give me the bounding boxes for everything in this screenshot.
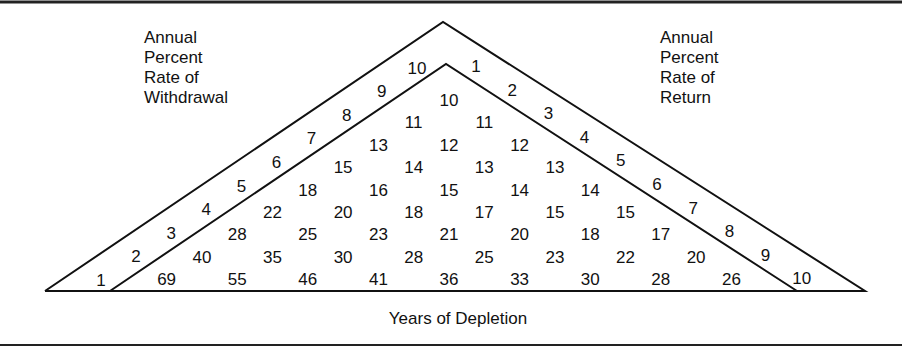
- depletion-years-cell: 14: [510, 181, 529, 200]
- depletion-years-cell: 25: [298, 225, 317, 244]
- depletion-years-cell: 22: [263, 203, 282, 222]
- depletion-years-cell: 20: [510, 225, 529, 244]
- depletion-years-cell: 18: [581, 225, 600, 244]
- withdrawal-rate-label: 1: [96, 271, 105, 290]
- depletion-years-cell: 14: [581, 181, 600, 200]
- depletion-years-cell: 12: [440, 136, 459, 155]
- depletion-years-cell: 11: [405, 113, 423, 132]
- depletion-years-cell: 18: [404, 203, 423, 222]
- depletion-years-cell: 20: [687, 248, 706, 267]
- right-label-line: Percent: [660, 48, 719, 68]
- depletion-years-cell: 14: [404, 158, 423, 177]
- depletion-years-cell: 23: [545, 248, 564, 267]
- return-rate-label: 3: [544, 104, 553, 123]
- withdrawal-rate-label: 5: [237, 177, 246, 196]
- depletion-triangle-diagram: 12345678910 12345678910 1011111312121514…: [0, 0, 902, 355]
- depletion-years-cell: 55: [228, 270, 247, 289]
- return-rate-label: 10: [792, 269, 811, 288]
- depletion-years-cell: 13: [475, 158, 494, 177]
- depletion-years-cell: 25: [475, 248, 494, 267]
- withdrawal-rate-label: 10: [407, 59, 426, 78]
- return-rate-label: 4: [580, 128, 589, 147]
- depletion-years-cell: 17: [475, 203, 494, 222]
- right-label-line: Rate of: [660, 68, 719, 88]
- depletion-years-cell: 23: [369, 225, 388, 244]
- depletion-years-cell: 18: [298, 181, 317, 200]
- left-label-line: Annual: [144, 28, 228, 48]
- return-rate-labels: 12345678910: [471, 57, 811, 288]
- depletion-years-cell: 33: [510, 270, 529, 289]
- return-rate-label: 9: [761, 246, 770, 265]
- withdrawal-rate-label: 6: [272, 153, 281, 172]
- withdrawal-rate-label: 2: [131, 247, 140, 266]
- left-label-line: Percent: [144, 48, 228, 68]
- depletion-years-cell: 22: [616, 248, 635, 267]
- x-axis-label: Years of Depletion: [0, 309, 902, 329]
- depletion-years-cell: 30: [581, 270, 600, 289]
- depletion-years-cell: 30: [334, 248, 353, 267]
- depletion-years-cell: 20: [334, 203, 353, 222]
- depletion-years-cell: 21: [440, 225, 459, 244]
- return-rate-label: 2: [507, 81, 516, 100]
- withdrawal-rate-label: 3: [166, 224, 175, 243]
- depletion-years-cell: 40: [192, 248, 211, 267]
- return-rate-label: 1: [471, 57, 480, 76]
- depletion-years-cell: 28: [228, 225, 247, 244]
- return-rate-label: 5: [616, 151, 625, 170]
- depletion-years-cell: 69: [157, 270, 176, 289]
- right-label-line: Return: [660, 88, 719, 108]
- depletion-years-cell: 13: [369, 136, 388, 155]
- depletion-years-cell: 12: [510, 136, 529, 155]
- withdrawal-axis-label: Annual Percent Rate of Withdrawal: [144, 28, 228, 108]
- depletion-years-cell: 28: [404, 248, 423, 267]
- depletion-years-cell: 17: [651, 225, 670, 244]
- depletion-years-cell: 13: [545, 158, 564, 177]
- depletion-years-cell: 11: [475, 113, 493, 132]
- depletion-years-cell: 15: [440, 181, 459, 200]
- depletion-years-cell: 46: [298, 270, 317, 289]
- depletion-years-cell: 26: [722, 270, 741, 289]
- return-rate-label: 8: [725, 222, 734, 241]
- return-rate-label: 6: [652, 175, 661, 194]
- depletion-years-cell: 15: [334, 158, 353, 177]
- right-label-line: Annual: [660, 28, 719, 48]
- withdrawal-rate-label: 7: [307, 129, 316, 148]
- depletion-years-cell: 15: [616, 203, 635, 222]
- depletion-years-cell: 41: [369, 270, 388, 289]
- left-label-line: Withdrawal: [144, 88, 228, 108]
- return-rate-label: 7: [688, 199, 697, 218]
- withdrawal-rate-label: 8: [342, 106, 351, 125]
- depletion-years-cell: 35: [263, 248, 282, 267]
- left-label-line: Rate of: [144, 68, 228, 88]
- depletion-years-cell: 36: [440, 270, 459, 289]
- depletion-years-cell: 10: [440, 91, 459, 110]
- return-axis-label: Annual Percent Rate of Return: [660, 28, 719, 108]
- depletion-years-cell: 16: [369, 181, 388, 200]
- depletion-years-cell: 15: [545, 203, 564, 222]
- depletion-years-cell: 28: [651, 270, 670, 289]
- withdrawal-rate-label: 4: [202, 200, 211, 219]
- withdrawal-rate-label: 9: [377, 82, 386, 101]
